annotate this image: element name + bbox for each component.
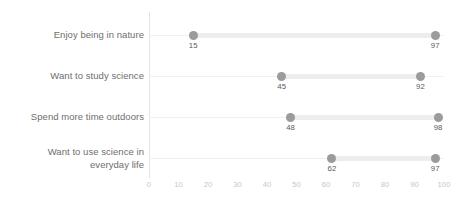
category-label: Spend more time outdoors [0,111,144,124]
data-point-low[interactable] [286,113,295,122]
data-label-high: 97 [420,164,450,173]
x-tick-label: 90 [402,180,428,189]
data-point-low[interactable] [327,154,336,163]
x-tick-label: 100 [431,180,455,189]
data-point-low[interactable] [277,72,286,81]
category-axis: Enjoy being in nature Want to study scie… [0,12,144,178]
y-axis-line [149,12,150,178]
x-axis: 0 10 20 30 40 50 60 70 80 90 100 [149,180,444,194]
row-connector [332,156,435,161]
x-tick-label: 70 [343,180,369,189]
data-label-low: 15 [178,41,208,50]
data-label-low: 62 [317,164,347,173]
x-tick-label: 20 [195,180,221,189]
x-tick-label: 60 [313,180,339,189]
data-label-high: 97 [420,41,450,50]
data-point-high[interactable] [434,113,443,122]
x-tick-label: 30 [225,180,251,189]
data-point-high[interactable] [431,31,440,40]
category-label: Want to study science [0,70,144,83]
data-point-low[interactable] [189,31,198,40]
x-tick-label: 0 [136,180,162,189]
x-tick-label: 50 [284,180,310,189]
data-point-high[interactable] [431,154,440,163]
category-label: Want to use science in everyday life [0,146,144,171]
x-tick-label: 10 [166,180,192,189]
data-label-low: 45 [267,82,297,91]
plot-area: 15 97 45 92 48 98 62 [149,12,444,178]
x-tick-label: 40 [254,180,280,189]
row-connector [282,74,421,79]
data-point-high[interactable] [416,72,425,81]
data-label-high: 92 [405,82,435,91]
x-tick-label: 80 [372,180,398,189]
row-connector [291,115,439,120]
row-connector [193,33,435,38]
data-label-low: 48 [276,123,306,132]
category-label: Enjoy being in nature [0,29,144,42]
data-label-high: 98 [423,123,453,132]
